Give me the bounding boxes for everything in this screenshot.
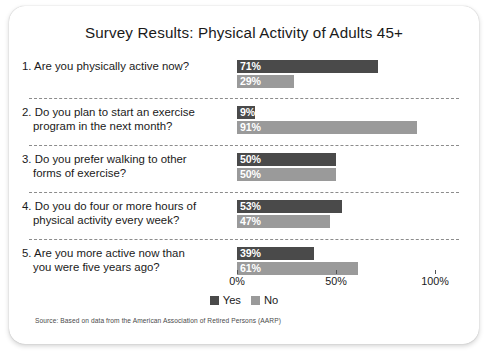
legend-item-yes: Yes [210, 294, 241, 306]
bar-value-label-yes: 9% [240, 106, 255, 119]
bar-value-label-yes: 50% [240, 153, 261, 166]
question-text: 1. Are you physically active now? [22, 60, 227, 74]
axis-tick-mark [237, 270, 238, 274]
bar-fill-no [237, 121, 417, 134]
axis-tick-label: 50% [325, 275, 347, 287]
bar-value-label-no: 61% [240, 262, 261, 275]
axis-tick-label: 0% [229, 275, 245, 287]
legend-swatch-no-icon [251, 296, 260, 305]
bar-value-label-no: 50% [240, 168, 261, 181]
question-text-line: 4. Do you do four or more hours of [22, 200, 227, 214]
axis-tick-mark [336, 270, 337, 274]
legend-label-no: No [264, 294, 278, 306]
question-text: 4. Do you do four or more hours ofphysic… [22, 200, 227, 227]
legend-swatch-yes-icon [210, 296, 219, 305]
question-text-line: forms of exercise? [22, 167, 227, 181]
bar-value-label-yes: 71% [240, 60, 261, 73]
question-text-line: program in the next month? [22, 120, 227, 134]
source-note: Source: Based on data from the American … [35, 317, 281, 324]
survey-chart-card: Survey Results: Physical Activity of Adu… [9, 6, 479, 344]
bar-value-label-no: 47% [240, 215, 261, 228]
bar-value-label-yes: 39% [240, 247, 261, 260]
question-text-line: 2. Do you plan to start an exercise [22, 106, 227, 120]
legend-label-yes: Yes [223, 294, 241, 306]
bar-value-label-no: 29% [240, 75, 261, 88]
row-divider [29, 192, 459, 193]
bar-value-label-yes: 53% [240, 200, 261, 213]
legend-item-no: No [251, 294, 278, 306]
row-divider [29, 239, 459, 240]
question-text: 3. Do you prefer walking to otherforms o… [22, 153, 227, 180]
row-divider [29, 98, 459, 99]
row-divider [29, 145, 459, 146]
question-text-line: physical activity every week? [22, 214, 227, 228]
axis-tick-mark [435, 270, 436, 274]
question-text: 2. Do you plan to start an exerciseprogr… [22, 106, 227, 133]
chart-legend: Yes No [9, 294, 479, 306]
page-title: Survey Results: Physical Activity of Adu… [9, 24, 479, 41]
axis-tick-label: 100% [421, 275, 449, 287]
question-text-line: 1. Are you physically active now? [22, 60, 227, 74]
bar-value-label-no: 91% [240, 121, 261, 134]
question-text-line: 3. Do you prefer walking to other [22, 153, 227, 167]
question-text-line: 5. Are you more active now than [22, 247, 227, 261]
